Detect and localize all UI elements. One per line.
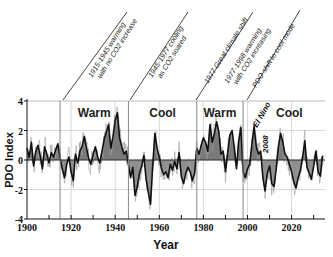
regime-label: Warm xyxy=(78,106,111,120)
y-tick-label: 4 xyxy=(18,96,23,107)
x-tick-label: 2000 xyxy=(238,222,258,233)
regime-label: Cool xyxy=(276,106,303,120)
year-2008-label: 2008 xyxy=(261,135,270,154)
x-tick-label: 2020 xyxy=(282,222,302,233)
el-nino-label: El Nino xyxy=(251,101,273,129)
x-axis-title: Year xyxy=(153,238,179,252)
annotation-text: 1915-1945 warmingwith no CO2 increase xyxy=(86,13,139,84)
y-axis-title: PDO Index xyxy=(3,131,15,188)
x-tick-label: 1940 xyxy=(105,222,125,233)
y-tick-label: 0 xyxy=(18,155,23,166)
regime-label: Warm xyxy=(203,106,236,120)
x-tick-label: 1900 xyxy=(17,222,37,233)
x-tick-label: 1980 xyxy=(193,222,213,233)
y-tick-label: 2 xyxy=(18,126,23,137)
annotations: 1915-1945 warmingwith no CO2 increase194… xyxy=(63,10,300,100)
regime-label: Cool xyxy=(149,106,176,120)
annotation-text: 1945-1977 coolingas CO2 soared xyxy=(146,24,192,83)
x-tick-label: 1960 xyxy=(149,222,169,233)
y-tick-label: -2 xyxy=(15,185,23,196)
x-tick-label: 1920 xyxy=(61,222,81,233)
pdo-chart: -4-20241900192019401960198020002020 Warm… xyxy=(0,0,333,257)
annotation-text: 1977-1998 warmingwith CO2 increasing xyxy=(222,22,273,89)
